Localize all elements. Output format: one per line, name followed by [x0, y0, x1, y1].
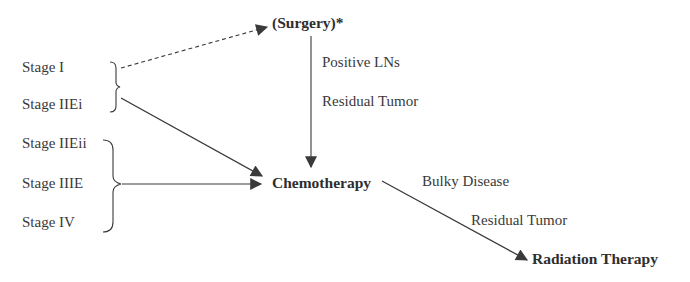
- stage-label-iiei: Stage IIEi: [22, 95, 82, 113]
- node-radiation: Radiation Therapy: [532, 250, 658, 268]
- treatment-flow-diagram: Stage I Stage IIEi Stage IIEii Stage III…: [0, 0, 690, 282]
- stage-label-iv: Stage IV: [22, 213, 75, 231]
- edge-label-residual-tumor-1: Residual Tumor: [322, 92, 418, 110]
- dashed-arrow-to-surgery: [121, 27, 267, 68]
- arrow-early-to-chemo: [121, 98, 262, 176]
- edge-label-bulky-disease: Bulky Disease: [422, 172, 509, 190]
- edge-label-positive-lns: Positive LNs: [322, 53, 400, 71]
- edge-label-residual-tumor-2: Residual Tumor: [471, 211, 567, 229]
- stage-label-iiie: Stage IIIE: [22, 174, 83, 192]
- node-chemotherapy: Chemotherapy: [272, 174, 371, 192]
- diagram-connectors: [0, 0, 690, 282]
- bracket-advanced-stages: [103, 140, 121, 232]
- node-surgery: (Surgery)*: [272, 14, 343, 32]
- stage-label-i: Stage I: [22, 58, 64, 76]
- stage-label-iieii: Stage IIEii: [22, 134, 87, 152]
- bracket-early-stages: [110, 62, 120, 112]
